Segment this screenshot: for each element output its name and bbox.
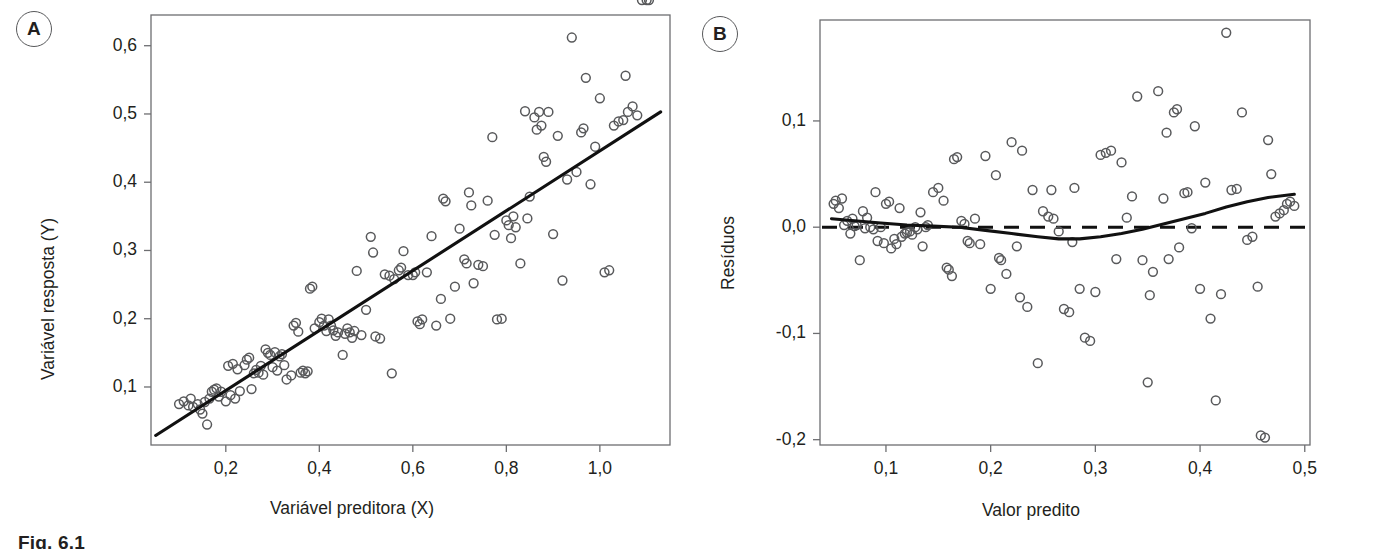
data-point xyxy=(1159,194,1168,203)
data-point xyxy=(516,259,525,268)
data-point xyxy=(918,242,927,251)
y-tick-label: -0,1 xyxy=(740,322,806,343)
data-point xyxy=(530,113,539,122)
data-point xyxy=(446,314,455,323)
data-point xyxy=(942,263,951,272)
x-tick-label: 0,2 xyxy=(196,458,256,479)
x-tick-label: 1,0 xyxy=(570,458,630,479)
data-point xyxy=(965,239,974,248)
data-point xyxy=(369,248,378,257)
data-point xyxy=(1002,270,1011,279)
data-point xyxy=(387,369,396,378)
data-point xyxy=(1039,207,1048,216)
x-tick-label: 0,5 xyxy=(1275,458,1335,479)
data-point xyxy=(247,385,256,394)
data-point xyxy=(1175,243,1184,252)
data-point xyxy=(544,108,553,117)
data-point xyxy=(1232,185,1241,194)
data-point xyxy=(1044,212,1053,221)
data-point xyxy=(221,397,230,406)
x-tick-label: 0,2 xyxy=(961,458,1021,479)
data-point xyxy=(436,295,445,304)
data-point xyxy=(624,108,633,117)
data-point xyxy=(1164,255,1173,264)
data-point xyxy=(203,420,212,429)
data-point xyxy=(1211,396,1220,405)
data-point xyxy=(490,230,499,239)
x-tick-label: 0,8 xyxy=(476,458,536,479)
data-point xyxy=(523,214,532,223)
data-point xyxy=(1267,170,1276,179)
data-point xyxy=(242,355,251,364)
data-point xyxy=(591,142,600,151)
y-tick-label: 0,4 xyxy=(71,171,137,192)
data-point xyxy=(976,240,985,249)
data-point xyxy=(633,111,642,120)
data-point xyxy=(986,284,995,293)
data-point xyxy=(1162,128,1171,137)
data-point xyxy=(352,267,361,276)
y-tick-label: 0,2 xyxy=(71,308,137,329)
data-point xyxy=(397,263,406,272)
data-point xyxy=(1070,183,1079,192)
data-point xyxy=(1133,92,1142,101)
panel-b: B Resíduos Valor predito 0,10,20,30,40,5… xyxy=(690,0,1373,549)
data-point xyxy=(1190,122,1199,131)
data-point xyxy=(1264,136,1273,145)
data-point xyxy=(357,331,366,340)
data-point xyxy=(549,230,558,239)
y-tick-label: 0,5 xyxy=(71,103,137,124)
data-point xyxy=(1007,138,1016,147)
plot-frame xyxy=(820,20,1310,445)
data-point xyxy=(581,73,590,82)
data-point xyxy=(1201,178,1210,187)
figure-caption: Fig. 6.1 xyxy=(18,532,85,549)
data-point xyxy=(971,214,980,223)
data-point xyxy=(855,256,864,265)
figure-container: A Variável resposta (Y) Variável predito… xyxy=(0,0,1373,549)
data-point xyxy=(1122,213,1131,222)
data-point xyxy=(553,131,562,140)
data-point xyxy=(628,102,637,111)
data-point xyxy=(1117,158,1126,167)
data-point xyxy=(1238,108,1247,117)
data-point xyxy=(1149,267,1158,276)
data-points xyxy=(829,28,1298,442)
data-point xyxy=(439,194,448,203)
data-point xyxy=(1112,255,1121,264)
data-point xyxy=(455,224,464,233)
data-point xyxy=(467,201,476,210)
data-point xyxy=(997,256,1006,265)
data-point xyxy=(338,351,347,360)
data-point xyxy=(507,234,516,243)
y-tick-label: 0,6 xyxy=(71,35,137,56)
data-point xyxy=(451,282,460,291)
data-point xyxy=(399,247,408,256)
data-point xyxy=(1023,302,1032,311)
data-point xyxy=(366,232,375,241)
data-point xyxy=(280,361,289,370)
data-point xyxy=(469,279,478,288)
plot-area-b xyxy=(690,0,1373,549)
data-point xyxy=(1128,192,1137,201)
data-point xyxy=(483,196,492,205)
data-point xyxy=(992,171,1001,180)
data-point xyxy=(1206,314,1215,323)
y-tick-label: 0,0 xyxy=(740,216,806,237)
plot-frame xyxy=(151,15,670,445)
x-tick-label: 0,4 xyxy=(1170,458,1230,479)
data-point xyxy=(394,266,403,275)
y-tick-label: 0,3 xyxy=(71,239,137,260)
data-point xyxy=(1012,242,1021,251)
data-point xyxy=(1016,293,1025,302)
data-point xyxy=(1018,146,1027,155)
data-point xyxy=(963,237,972,246)
data-point xyxy=(289,321,298,330)
data-point xyxy=(1222,28,1231,37)
data-point xyxy=(1028,186,1037,195)
data-point xyxy=(595,94,604,103)
y-tick-label: -0,2 xyxy=(740,429,806,450)
data-point xyxy=(916,208,925,217)
data-point xyxy=(981,152,990,161)
data-point xyxy=(1154,87,1163,96)
